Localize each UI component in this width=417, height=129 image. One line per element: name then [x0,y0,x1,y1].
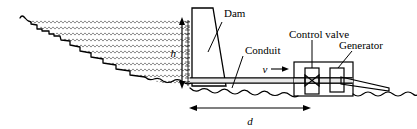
dimension-d-arrow-left [189,105,197,111]
text-labels: Dam Conduit Control valve Generator [224,7,383,56]
diagram-canvas: h d v Dam Conduit Control valve Gener [0,0,417,129]
reservoir-water-fill [20,18,192,90]
velocity-indicator: v [263,63,289,75]
dimension-h-label: h [171,47,177,59]
generator-label: Generator [339,39,383,51]
velocity-arrow-head [282,66,289,72]
conduit-label: Conduit [245,44,280,56]
velocity-label: v [263,63,268,75]
dam-structure [192,8,226,86]
powerhouse [294,62,353,96]
tailwater-surface [353,92,417,96]
dam-label: Dam [224,7,246,19]
dimension-d: d [189,105,311,127]
draft-tube [341,77,389,91]
tailrace-outflow [341,77,389,91]
reservoir [20,18,192,90]
dimension-d-arrow-right [303,105,311,111]
hydroelectric-dam-diagram: h d v Dam Conduit Control valve Gener [0,0,417,129]
ground-downstream [190,88,298,97]
dimension-d-label: d [247,115,253,127]
generator-leader-line [338,51,352,68]
